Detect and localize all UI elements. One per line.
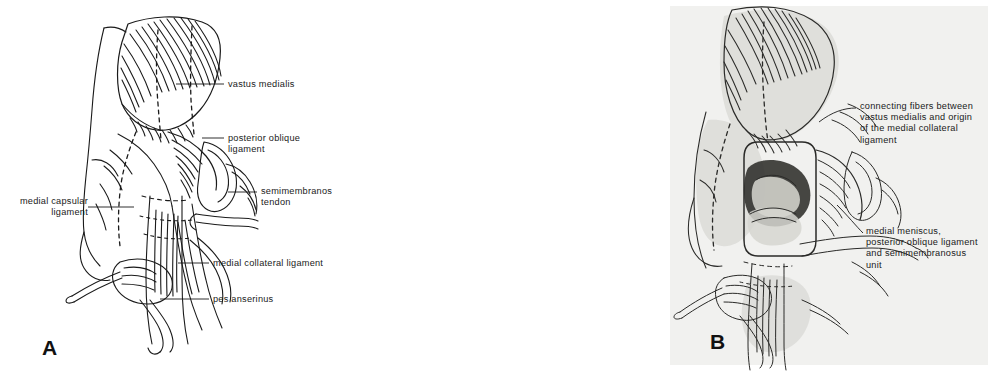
label-connecting-fibers: connecting fibers between vastus mediali… — [860, 101, 992, 146]
label-medial-collateral-ligament: medial collateral ligament — [213, 258, 323, 269]
label-medial-meniscus-unit: medial meniscus, posterior oblique ligam… — [866, 226, 992, 271]
label-semimembranosus-tendon: semimembranosus tendon — [261, 186, 333, 208]
panel-b-leader-lines — [332, 0, 992, 381]
panel-a: A vastus medialis posterior oblique liga… — [0, 0, 332, 381]
label-medial-capsular-ligament: medial capsular ligament — [6, 196, 88, 218]
panel-b: B connecting fibers between vastus media… — [332, 0, 664, 381]
leader-medial-meniscus-unit — [837, 205, 863, 233]
label-vastus-medialis: vastus medialis — [228, 79, 295, 90]
label-pes-anserinus: pes anserinus — [213, 294, 273, 305]
label-posterior-oblique-ligament: posterior oblique ligament — [228, 133, 332, 155]
leader-connecting-fibers — [819, 108, 856, 122]
